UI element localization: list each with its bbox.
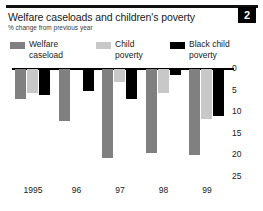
bar-1995-welfare-caseload bbox=[15, 69, 26, 99]
y-axis-tick-20: 20 bbox=[232, 149, 252, 159]
bar-1995-child-poverty bbox=[27, 69, 38, 93]
chart-legend: Welfare caseloadChild povertyBlack child… bbox=[10, 40, 254, 66]
bar-99-welfare-caseload bbox=[189, 69, 200, 155]
top-rule-divider bbox=[6, 5, 258, 8]
page-title: Welfare caseloads and children's poverty bbox=[8, 11, 220, 23]
bar-99-black-child-poverty bbox=[213, 69, 224, 116]
legend-label-welfare-caseload: Welfare caseload bbox=[29, 39, 99, 60]
legend-label-black-child-poverty: Black child poverty bbox=[189, 39, 259, 60]
chart-subtitle: % change from previous year bbox=[8, 24, 208, 31]
y-axis-tick-10: 10 bbox=[232, 106, 252, 116]
bar-97-black-child-poverty bbox=[126, 69, 137, 99]
y-axis-tick-5: 5 bbox=[232, 85, 252, 95]
bar-group-99 bbox=[189, 69, 225, 180]
legend-swatch-icon-welfare-caseload bbox=[10, 42, 25, 49]
bar-group-97 bbox=[102, 69, 138, 180]
bar-98-child-poverty bbox=[158, 69, 169, 93]
bar-group-98 bbox=[146, 69, 182, 180]
y-axis-tick-15: 15 bbox=[232, 128, 252, 138]
legend-swatch-icon-black-child-poverty bbox=[170, 42, 185, 49]
x-axis-tick-98: 98 bbox=[144, 185, 184, 195]
x-axis-labels: 199596979899 bbox=[12, 185, 232, 199]
y-axis-tick-0: 0 bbox=[232, 63, 252, 73]
bar-1995-black-child-poverty bbox=[39, 69, 50, 95]
plot-area bbox=[12, 68, 228, 180]
bar-group-96 bbox=[59, 69, 95, 180]
x-axis-tick-97: 97 bbox=[100, 185, 140, 195]
figure-number-badge: 2 bbox=[238, 7, 256, 23]
legend-swatch-icon-child-poverty bbox=[96, 42, 111, 49]
y-axis-tick-25: 25 bbox=[232, 171, 252, 181]
x-axis-tick-96: 96 bbox=[57, 185, 97, 195]
bar-96-welfare-caseload bbox=[59, 69, 70, 121]
bar-97-welfare-caseload bbox=[102, 69, 113, 158]
chart-card: Welfare caseloads and children's poverty… bbox=[0, 0, 263, 211]
bar-group-1995 bbox=[15, 69, 51, 180]
bar-96-black-child-poverty bbox=[83, 69, 94, 91]
y-axis-labels: 0510152025 bbox=[232, 62, 260, 187]
bar-98-welfare-caseload bbox=[146, 69, 157, 153]
bar-99-child-poverty bbox=[201, 69, 212, 119]
bar-97-child-poverty bbox=[114, 69, 125, 82]
x-axis-tick-1995: 1995 bbox=[13, 185, 53, 195]
x-axis-tick-99: 99 bbox=[187, 185, 227, 195]
bar-98-black-child-poverty bbox=[170, 69, 181, 75]
